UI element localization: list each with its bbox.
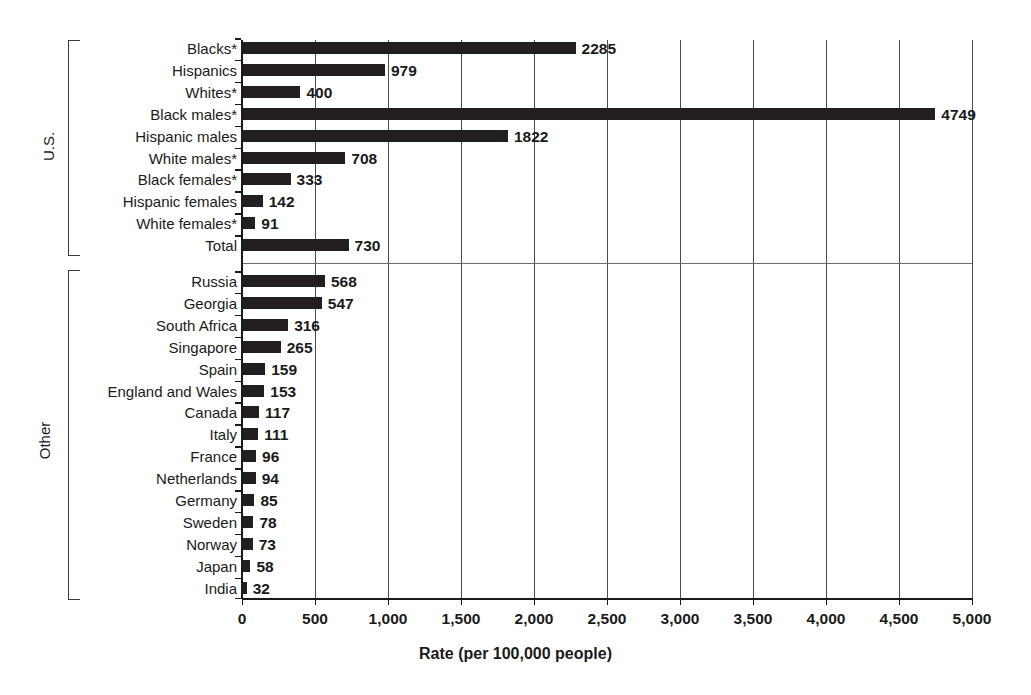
bar-value-label: 316 (294, 318, 320, 334)
bar-value-label: 153 (270, 384, 296, 400)
category-label: Netherlands (60, 471, 237, 486)
bar-value-label: 4749 (941, 107, 975, 123)
bar-value-label: 1822 (514, 129, 548, 145)
bar (242, 560, 250, 572)
category-label: Germany (60, 493, 237, 508)
bar (242, 130, 508, 142)
category-label: Sweden (60, 515, 237, 530)
bar-value-label: 78 (259, 515, 276, 531)
category-label: Total (60, 238, 237, 253)
bar (242, 341, 281, 353)
bar (242, 64, 385, 76)
category-label: Japan (60, 559, 237, 574)
category-label: Hispanic males (60, 129, 237, 144)
bar (242, 195, 263, 207)
gridline-3500 (753, 40, 754, 598)
bar (242, 538, 253, 550)
gridline-2500 (607, 40, 608, 598)
bar-value-label: 708 (351, 151, 377, 167)
bar (242, 385, 264, 397)
bar (242, 173, 291, 185)
bar-value-label: 85 (260, 493, 277, 509)
bar-value-label: 111 (264, 427, 288, 443)
bar (242, 297, 322, 309)
x-tick-mark (315, 598, 316, 605)
x-tick-mark (242, 598, 243, 605)
category-label: Hispanic females (60, 194, 237, 209)
bar-value-label: 730 (355, 238, 381, 254)
incarceration-rate-bar-chart: U.S. Other Blacks*2285Hispanics979Whites… (0, 0, 1031, 695)
bar-value-label: 568 (331, 274, 357, 290)
gridline-5000 (972, 40, 973, 598)
x-tick-mark (680, 598, 681, 605)
x-tick-mark (607, 598, 608, 605)
x-tick-mark (461, 598, 462, 605)
category-label: Norway (60, 537, 237, 552)
x-tick-mark (388, 598, 389, 605)
bar (242, 108, 935, 120)
bar (242, 472, 256, 484)
x-tick-mark (826, 598, 827, 605)
category-label: Italy (60, 427, 237, 442)
category-label: Singapore (60, 340, 237, 355)
y-axis-line (241, 40, 243, 599)
gridline-1500 (461, 40, 462, 598)
bar (242, 217, 255, 229)
gridline-3000 (680, 40, 681, 598)
bar-value-label: 94 (262, 471, 279, 487)
plot-area: Blacks*2285Hispanics979Whites*400Black m… (0, 0, 1031, 620)
gridline-1000 (388, 40, 389, 598)
category-label: Georgia (60, 296, 237, 311)
bar-value-label: 142 (269, 194, 295, 210)
bar (242, 450, 256, 462)
category-label: France (60, 449, 237, 464)
category-label: Hispanics (60, 63, 237, 78)
x-tick-mark (534, 598, 535, 605)
x-axis-title: Rate (per 100,000 people) (0, 645, 1031, 663)
bar-value-label: 91 (261, 216, 278, 232)
category-label: Spain (60, 362, 237, 377)
x-tick-mark (972, 598, 973, 605)
category-label: White males* (60, 151, 237, 166)
category-label: Black males* (60, 107, 237, 122)
bar-value-label: 159 (271, 362, 297, 378)
category-label: India (60, 581, 237, 596)
category-label: Blacks* (60, 41, 237, 56)
category-label: Black females* (60, 172, 237, 187)
bar-value-label: 96 (262, 449, 279, 465)
bar-value-label: 58 (256, 559, 273, 575)
bar-value-label: 400 (306, 85, 332, 101)
bar (242, 406, 259, 418)
bar (242, 42, 576, 54)
category-label: Russia (60, 274, 237, 289)
bar-value-label: 547 (328, 296, 354, 312)
category-label: England and Wales (60, 384, 237, 399)
bar (242, 86, 300, 98)
bar (242, 494, 254, 506)
bar (242, 428, 258, 440)
x-tick-mark (899, 598, 900, 605)
bar (242, 319, 288, 331)
category-label: Whites* (60, 85, 237, 100)
bar (242, 152, 345, 164)
gridline-4500 (899, 40, 900, 598)
bar-value-label: 333 (297, 172, 323, 188)
bar (242, 363, 265, 375)
bar-value-label: 2285 (582, 41, 616, 57)
bar (242, 239, 349, 251)
group-separator (242, 263, 972, 264)
bar-value-label: 265 (287, 340, 313, 356)
category-label: South Africa (60, 318, 237, 333)
category-label: Canada (60, 405, 237, 420)
category-label: White females* (60, 216, 237, 231)
gridline-2000 (534, 40, 535, 598)
bar-value-label: 73 (259, 537, 276, 553)
x-tick-label: 5,000 (927, 611, 1017, 627)
gridline-4000 (826, 40, 827, 598)
x-tick-mark (753, 598, 754, 605)
bar (242, 275, 325, 287)
bar (242, 516, 253, 528)
bar-value-label: 32 (253, 581, 270, 597)
bar-value-label: 117 (265, 405, 290, 421)
bar-value-label: 979 (391, 63, 417, 79)
